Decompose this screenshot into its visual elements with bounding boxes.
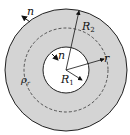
- inner-normal-label: n: [58, 49, 65, 62]
- radius-var-label: r: [104, 52, 110, 65]
- annulus-diagram: n n R2 R1 r ρr: [0, 0, 130, 135]
- outer-normal-label: n: [27, 5, 34, 18]
